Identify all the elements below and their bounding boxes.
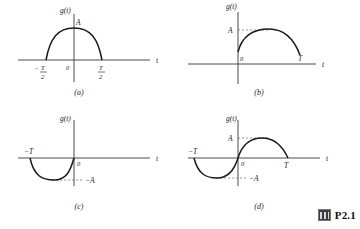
panel-b: g(t) t A 0 T — [184, 0, 356, 88]
panel-c-x-axis-label: t — [156, 154, 159, 163]
panel-a-peak-label: A — [75, 18, 81, 27]
panel-d-origin-label: 0 — [241, 160, 245, 167]
panel-d-x-axis-label: t — [326, 154, 329, 163]
panel-c-origin-label: 0 — [77, 160, 81, 167]
panel-c: g(t) t −T 0 −A — [4, 116, 176, 204]
svg-text:T: T — [41, 64, 45, 71]
svg-text:2: 2 — [99, 73, 103, 80]
svg-text:2: 2 — [41, 73, 45, 80]
panel-b-curve — [238, 29, 300, 55]
panel-c-trough-label: −A — [85, 176, 95, 185]
panel-b-tick-label-right: T — [298, 54, 303, 63]
panel-a-y-axis-label: g(t) — [60, 6, 71, 15]
panel-d-trough-label: −A — [249, 174, 259, 183]
panel-a-x-axis-label: t — [156, 56, 159, 65]
panel-a-caption: (a) — [59, 88, 99, 97]
panel-c-y-axis-label: g(t) — [60, 116, 71, 123]
panel-c-tick-label-left: −T — [24, 147, 34, 156]
panel-d-tick-label-left: −T — [188, 147, 198, 156]
panel-d-y-axis-label: g(t) — [226, 116, 237, 123]
panel-d-peak-label: A — [227, 134, 233, 143]
svg-text:−: − — [34, 65, 38, 72]
panel-d-tick-label-right: T — [284, 161, 289, 170]
panel-a-tick-label-left: − T 2 — [34, 64, 47, 80]
panel-a-origin-label: 0 — [66, 64, 70, 71]
figure-reference: P2.1 — [318, 209, 356, 221]
panel-b-caption: (b) — [239, 88, 279, 97]
svg-text:T: T — [99, 64, 103, 71]
panel-d: g(t) t −T T 0 A −A — [184, 116, 356, 204]
figure-thumbnail-icon — [318, 209, 331, 221]
panel-b-x-axis-label: t — [322, 60, 325, 69]
figure-reference-label: P2.1 — [335, 209, 356, 221]
panel-c-curve — [30, 158, 74, 180]
panel-a-tick-label-right: T 2 — [98, 64, 105, 80]
panel-b-peak-label: A — [227, 26, 233, 35]
panel-b-origin-label: 0 — [240, 55, 244, 62]
panel-a: g(t) t A 0 − T 2 T 2 — [4, 4, 176, 88]
panel-b-y-axis-label: g(t) — [226, 2, 237, 11]
panel-c-caption: (c) — [59, 202, 99, 211]
panel-d-caption: (d) — [239, 202, 279, 211]
figure-p2-1: g(t) t A 0 − T 2 T 2 (a) — [0, 0, 360, 229]
